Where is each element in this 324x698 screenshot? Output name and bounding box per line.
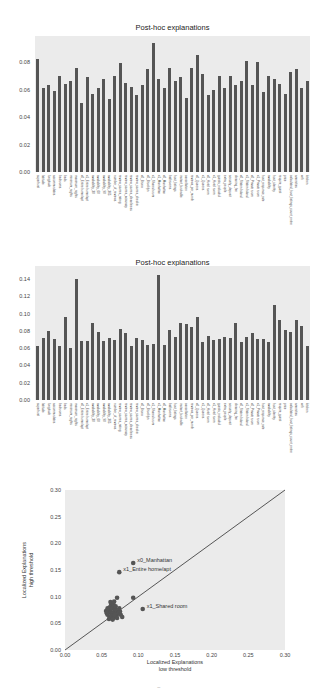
point-annotation: x1_Shared room	[147, 603, 188, 609]
scatter-point	[117, 570, 122, 575]
x-tick-label: 0.20	[199, 652, 225, 658]
scatter-point	[115, 595, 120, 600]
x-axis-title: Localized Explanations low threshold	[65, 659, 285, 673]
scatter-point	[112, 599, 117, 604]
scatter-point	[140, 607, 145, 612]
x-tick-label: 0.25	[235, 652, 261, 658]
scatter-point	[110, 617, 115, 622]
y-tick-label: 0.20	[35, 540, 61, 546]
point-annotation: x0_Manhattan	[137, 557, 172, 563]
page-mark: ~	[157, 684, 161, 690]
y-axis-title-line2: high threshold	[28, 505, 35, 635]
y-tick-label: 0.15	[35, 567, 61, 573]
y-tick-label: 0.00	[35, 647, 61, 653]
scatter-point	[131, 561, 136, 566]
scatter-chart: 0.000.050.100.150.200.250.300.000.050.10…	[0, 0, 324, 698]
x-tick-label: 0.05	[89, 652, 115, 658]
x-tick-label: 0.15	[162, 652, 188, 658]
y-tick-label: 0.25	[35, 514, 61, 520]
scatter-point	[115, 616, 120, 621]
x-tick-label: 0.10	[125, 652, 151, 658]
x-axis-title-line2: low threshold	[65, 666, 285, 673]
x-axis-title-line1: Localized Explanations	[65, 659, 285, 666]
reference-line	[65, 490, 285, 650]
y-tick-label: 0.30	[35, 487, 61, 493]
y-tick-label: 0.05	[35, 620, 61, 626]
scatter-point	[105, 606, 110, 611]
y-axis-title-line1: Localized Explanations	[21, 505, 28, 635]
y-tick-label: 0.10	[35, 594, 61, 600]
point-annotation: x1_Entire home/apt	[123, 566, 171, 572]
y-axis-title: Localized Explanations high threshold	[21, 505, 35, 635]
x-tick-label: 0.30	[272, 652, 298, 658]
scatter-point	[131, 595, 136, 600]
scatter-point	[113, 604, 118, 609]
scatter-point	[120, 615, 125, 620]
